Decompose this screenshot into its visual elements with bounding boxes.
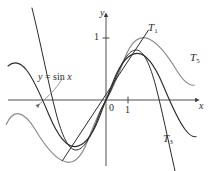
- t3-subscript: 3: [169, 138, 173, 146]
- sin-label-x: x: [67, 71, 71, 82]
- t1-label: T1: [148, 22, 158, 33]
- x-axis-label: x: [199, 101, 203, 111]
- sin-label-leader: [37, 79, 62, 106]
- curve-t1: [63, 30, 149, 161]
- sin-function-label: y = sin x: [38, 72, 72, 82]
- x-tick-label-1: 1: [125, 105, 130, 115]
- y-tick-label-1: 1: [94, 32, 99, 42]
- t5-label: T5: [190, 52, 200, 63]
- t3-label: T3: [163, 133, 173, 144]
- t5-subscript: 5: [196, 57, 200, 65]
- origin-label: 0: [109, 103, 114, 113]
- y-axis-label: y: [100, 8, 104, 18]
- graph-canvas: [0, 0, 214, 171]
- sin-label-eq: = sin: [42, 71, 67, 82]
- taylor-polynomial-figure: y x 1 1 0 y = sin x T1 T5 T3: [0, 0, 214, 171]
- t1-subscript: 1: [154, 27, 158, 35]
